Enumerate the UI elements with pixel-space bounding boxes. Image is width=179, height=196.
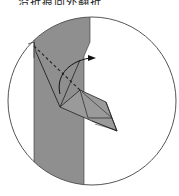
origami-diagram bbox=[0, 0, 179, 196]
